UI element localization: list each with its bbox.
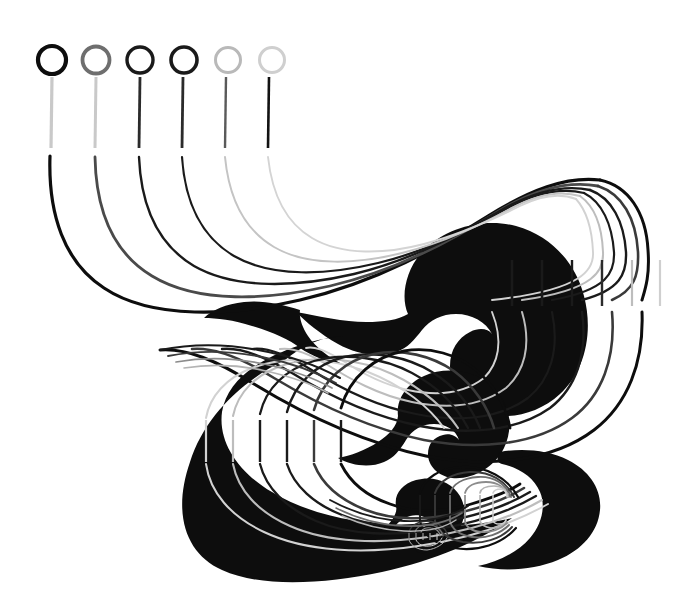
tracer-stem-2 <box>95 77 96 148</box>
tracer-stem-5 <box>225 77 226 148</box>
tracer-stem-3 <box>139 77 140 148</box>
artboard: Streamline Vortex Cascade <box>0 0 677 606</box>
tracer-stem-1 <box>51 77 52 148</box>
artwork-canvas <box>0 0 677 606</box>
tracer-stem-6 <box>268 77 269 148</box>
tracer-stem-4 <box>182 77 183 148</box>
